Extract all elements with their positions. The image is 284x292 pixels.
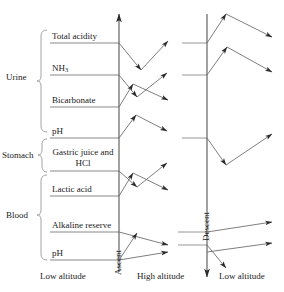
diagram-canvas [0, 0, 284, 292]
arrow-descent-alkaline-reserve [207, 222, 272, 232]
arrow-high-total-acidity [141, 41, 168, 70]
group-label-stomach: Stomach [2, 150, 34, 160]
arrow-ascent-bicarbonate [119, 84, 133, 107]
arrow-descent-blood-ph-up [207, 243, 272, 252]
ascent-trend-arrows [119, 41, 168, 260]
altitude-acid-base-diagram: Urine Stomach Blood Total acidity NH3 Bi… [0, 0, 284, 292]
arrow-descent-blood-ph-down [207, 245, 226, 268]
descent-trend-arrows [207, 14, 272, 268]
measure-label-nh3: NH3 [52, 63, 68, 75]
arrow-high-gastric [137, 163, 167, 187]
measure-label-lactic-acid: Lactic acid [52, 184, 92, 194]
measure-label-urine-ph: pH [52, 126, 63, 136]
measure-label-nh3-subscript: 3 [65, 66, 68, 73]
arrow-descent-urine-ph-up [226, 134, 272, 165]
arrow-high-lactic-acid [133, 173, 168, 190]
measure-label-blood-ph: pH [52, 248, 63, 258]
arrow-ascent-alkaline-reserve [119, 232, 168, 245]
group-label-blood: Blood [6, 210, 28, 220]
brace-urine [37, 30, 47, 132]
ascent-axis-label: Ascent [113, 250, 123, 275]
measure-label-gastric-juice-hcl: Gastric juice and HCl [50, 147, 116, 169]
arrow-ascent-lactic-acid [119, 173, 133, 196]
arrow-high-nh3 [137, 73, 167, 97]
arrow-descent-total-acidity-down [226, 14, 272, 37]
bottom-label-low-altitude-right: Low altitude [219, 271, 265, 281]
arrow-descent-nh3-down [227, 47, 272, 72]
measure-label-bicarbonate: Bicarbonate [52, 95, 95, 105]
arrow-ascent-total-acidity [119, 43, 141, 70]
measure-label-nh3-text: NH [52, 63, 65, 73]
arrow-descent-nh3-up [207, 47, 227, 75]
arrow-descent-urine-ph-down [207, 138, 226, 165]
measure-label-alkaline-reserve: Alkaline reserve [52, 220, 111, 230]
brace-blood [37, 175, 47, 260]
arrow-ascent-urine-ph [119, 115, 136, 138]
arrow-descent-total-acidity-up [207, 14, 226, 43]
brace-stomach [38, 139, 47, 172]
group-braces [37, 30, 47, 260]
arrow-high-urine-ph [136, 115, 167, 131]
bottom-label-high-altitude: High altitude [137, 271, 184, 281]
bottom-label-low-altitude-left: Low altitude [40, 271, 86, 281]
arrow-ascent-nh3 [119, 75, 137, 97]
arrow-high-blood-ph [119, 252, 168, 260]
measure-label-total-acidity: Total acidity [52, 31, 97, 41]
descent-axis-label: Descent [201, 212, 211, 241]
group-label-urine: Urine [6, 72, 27, 82]
